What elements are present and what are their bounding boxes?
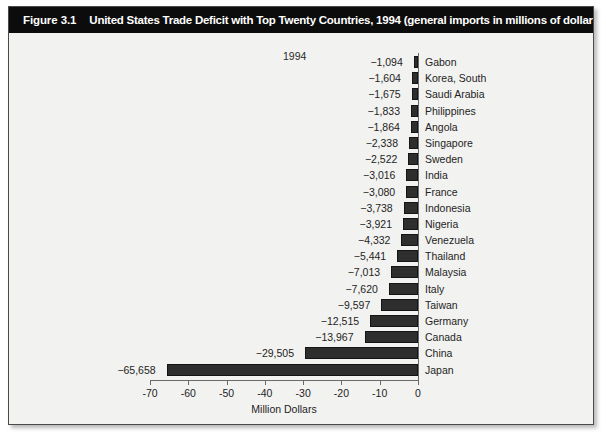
bar-value-label: −1,675 bbox=[368, 88, 400, 100]
bar-rows: −1,094Gabon−1,604Korea, South−1,675Saudi… bbox=[9, 55, 593, 379]
x-tick bbox=[303, 380, 304, 385]
bar-category-label: France bbox=[425, 186, 458, 198]
bar-rect bbox=[365, 331, 418, 343]
x-tick-label: -30 bbox=[296, 387, 311, 399]
x-tick bbox=[150, 380, 151, 385]
bar-value-label: −3,738 bbox=[360, 202, 392, 214]
bar-value-label: −12,515 bbox=[321, 315, 359, 327]
x-tick-label: -40 bbox=[257, 387, 272, 399]
bar-rect bbox=[370, 315, 418, 327]
bar-row: −2,522Sweden bbox=[9, 152, 593, 168]
bar-row: −3,921Nigeria bbox=[9, 217, 593, 233]
x-tick-label: -20 bbox=[334, 387, 349, 399]
bar-category-label: Korea, South bbox=[425, 72, 486, 84]
bar-category-label: Germany bbox=[425, 315, 468, 327]
bar-rect bbox=[412, 88, 418, 100]
bar-category-label: Malaysia bbox=[425, 266, 466, 278]
bar-rect bbox=[167, 364, 418, 376]
bar-rect bbox=[411, 121, 418, 133]
bar-category-label: Nigeria bbox=[425, 218, 458, 230]
bar-category-label: India bbox=[425, 169, 448, 181]
bar-value-label: −1,864 bbox=[367, 121, 399, 133]
bar-row: −29,505China bbox=[9, 346, 593, 362]
bar-category-label: Gabon bbox=[425, 56, 457, 68]
bar-category-label: Angola bbox=[425, 121, 458, 133]
bar-category-label: Saudi Arabia bbox=[425, 88, 485, 100]
bar-row: −1,094Gabon bbox=[9, 55, 593, 71]
figure-card: Figure 3.1 United States Trade Deficit w… bbox=[8, 6, 594, 425]
bar-row: −13,967Canada bbox=[9, 330, 593, 346]
bar-value-label: −7,620 bbox=[345, 283, 377, 295]
bar-chart: −1,094Gabon−1,604Korea, South−1,675Saudi… bbox=[9, 33, 593, 424]
x-tick bbox=[341, 380, 342, 385]
bar-category-label: Canada bbox=[425, 331, 462, 343]
bar-value-label: −1,094 bbox=[370, 56, 402, 68]
bar-value-label: −5,441 bbox=[354, 250, 386, 262]
bar-category-label: China bbox=[425, 347, 452, 359]
bar-row: −7,013Malaysia bbox=[9, 265, 593, 281]
bar-value-label: −13,967 bbox=[315, 331, 353, 343]
bar-rect bbox=[305, 347, 418, 359]
x-tick-label: -50 bbox=[219, 387, 234, 399]
bar-category-label: Taiwan bbox=[425, 299, 458, 311]
bar-row: −1,604Korea, South bbox=[9, 71, 593, 87]
bar-category-label: Indonesia bbox=[425, 202, 471, 214]
bar-value-label: −2,522 bbox=[365, 153, 397, 165]
bar-value-label: −9,597 bbox=[338, 299, 370, 311]
figure-header: Figure 3.1 United States Trade Deficit w… bbox=[9, 7, 593, 33]
bar-value-label: −1,604 bbox=[368, 72, 400, 84]
bar-row: −65,658Japan bbox=[9, 363, 593, 379]
bar-value-label: −2,338 bbox=[366, 137, 398, 149]
x-tick bbox=[227, 380, 228, 385]
bar-value-label: −3,016 bbox=[363, 169, 395, 181]
bar-row: −3,080France bbox=[9, 185, 593, 201]
bar-row: −3,016India bbox=[9, 168, 593, 184]
bar-row: −2,338Singapore bbox=[9, 136, 593, 152]
bar-row: −3,738Indonesia bbox=[9, 201, 593, 217]
bar-row: −5,441Thailand bbox=[9, 249, 593, 265]
bar-category-label: Philippines bbox=[425, 105, 476, 117]
bar-rect bbox=[414, 56, 418, 68]
x-tick bbox=[380, 380, 381, 385]
bar-rect bbox=[404, 202, 418, 214]
bar-value-label: −4,332 bbox=[358, 234, 390, 246]
bar-rect bbox=[381, 299, 418, 311]
bar-value-label: −3,921 bbox=[360, 218, 392, 230]
bar-value-label: −1,833 bbox=[368, 105, 400, 117]
bar-category-label: Thailand bbox=[425, 250, 465, 262]
bar-rect bbox=[412, 72, 418, 84]
x-axis-title: Million Dollars bbox=[251, 403, 316, 415]
bar-rect bbox=[411, 105, 418, 117]
bar-row: −4,332Venezuela bbox=[9, 233, 593, 249]
bar-row: −1,864Angola bbox=[9, 120, 593, 136]
figure-title: United States Trade Deficit with Top Twe… bbox=[89, 14, 593, 26]
figure-number: Figure 3.1 bbox=[23, 14, 76, 26]
x-tick bbox=[265, 380, 266, 385]
bar-category-label: Sweden bbox=[425, 153, 463, 165]
bar-rect bbox=[389, 283, 418, 295]
bar-value-label: −65,658 bbox=[117, 364, 155, 376]
bar-value-label: −7,013 bbox=[348, 266, 380, 278]
bar-value-label: −29,505 bbox=[256, 347, 294, 359]
bar-value-label: −3,080 bbox=[363, 186, 395, 198]
x-tick-label: -60 bbox=[181, 387, 196, 399]
x-tick-label: 0 bbox=[415, 387, 421, 399]
bar-category-label: Singapore bbox=[425, 137, 473, 149]
bar-row: −7,620Italy bbox=[9, 282, 593, 298]
plot-body: 1994 −1,094Gabon−1,604Korea, South−1,675… bbox=[9, 33, 593, 424]
bar-rect bbox=[397, 250, 418, 262]
x-tick bbox=[188, 380, 189, 385]
bar-rect bbox=[408, 153, 418, 165]
bar-row: −1,675Saudi Arabia bbox=[9, 87, 593, 103]
bar-row: −1,833Philippines bbox=[9, 104, 593, 120]
x-tick bbox=[418, 380, 419, 385]
bar-rect bbox=[391, 266, 418, 278]
bar-category-label: Italy bbox=[425, 283, 444, 295]
bar-category-label: Japan bbox=[425, 364, 454, 376]
bar-rect bbox=[403, 218, 418, 230]
x-tick-label: -10 bbox=[372, 387, 387, 399]
bar-row: −12,515Germany bbox=[9, 314, 593, 330]
bar-rect bbox=[409, 137, 418, 149]
bar-rect bbox=[406, 186, 418, 198]
x-axis-line bbox=[150, 380, 419, 381]
